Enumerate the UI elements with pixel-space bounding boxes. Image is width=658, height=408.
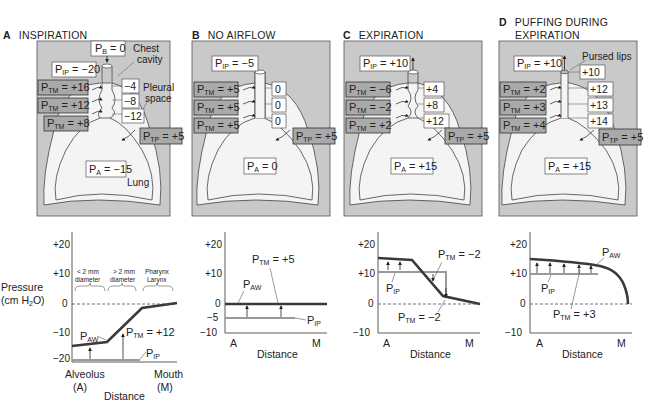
chart-c: +20 +10 0 −10 PTM = −2 PIP PTM = −2 A M …: [353, 232, 481, 360]
svg-text:0: 0: [520, 298, 526, 309]
svg-text:+10: +10: [205, 268, 222, 279]
svg-text:PIP = −5: PIP = −5: [215, 57, 254, 70]
svg-text:PTP = +5: PTP = +5: [448, 130, 489, 143]
svg-text:Alveolus: Alveolus: [65, 368, 105, 380]
svg-text:−4: −4: [124, 80, 136, 92]
svg-text:PTM = +12: PTM = +12: [126, 326, 175, 339]
chart-b: +20 +10 0 −5 −10 PTM = +5 PAW PIP A M Di…: [200, 232, 327, 360]
svg-text:−20: −20: [53, 353, 70, 364]
svg-text:PA = 0: PA = 0: [247, 160, 278, 173]
svg-text:Pursed lips: Pursed lips: [582, 51, 631, 62]
svg-text:PIP = −20: PIP = −20: [55, 63, 100, 76]
svg-text:PTM = +12: PTM = +12: [41, 99, 90, 112]
svg-text:PIP: PIP: [307, 314, 321, 327]
panel-c-lung-diagram: PIP = +10 PTM = −6 PTM = −2 PTM = +2 +4 …: [344, 41, 489, 216]
panel-b-lung-diagram: PIP = −5 PTM = +5 PTM = +5 PTM = +5 0 0 …: [192, 41, 337, 216]
svg-text:< 2 mm: < 2 mm: [77, 268, 99, 275]
svg-text:0: 0: [368, 298, 374, 309]
svg-text:Chest: Chest: [133, 43, 159, 54]
svg-text:+20: +20: [358, 239, 375, 250]
svg-text:PTP = +5: PTP = +5: [602, 131, 643, 144]
svg-text:PIP: PIP: [146, 347, 160, 360]
svg-text:PIP: PIP: [541, 282, 555, 295]
svg-text:PTM = −2: PTM = −2: [438, 248, 481, 261]
svg-text:Distance: Distance: [410, 348, 451, 360]
svg-text:PTM = +5: PTM = +5: [197, 119, 240, 132]
chart-a: Pressure (cm H2O) +20 +10 0 −10 −20 < 2 …: [1, 232, 183, 402]
svg-text:PTP = +5: PTP = +5: [143, 130, 184, 143]
svg-text:M: M: [465, 337, 474, 349]
svg-text:PTM = +16: PTM = +16: [41, 81, 90, 94]
diagram-canvas: PB = 0 Chest cavity PIP = −20 PTM = +16 …: [0, 0, 658, 408]
svg-text:diameter: diameter: [110, 276, 136, 283]
svg-text:+10: +10: [582, 66, 600, 78]
svg-text:PTM = +3: PTM = +3: [553, 308, 596, 321]
svg-text:+12: +12: [590, 83, 608, 95]
svg-text:diameter: diameter: [75, 276, 101, 283]
svg-text:0: 0: [275, 83, 281, 95]
svg-text:PIP = +10: PIP = +10: [517, 57, 562, 70]
svg-text:+4: +4: [426, 83, 438, 95]
chart-d: +20 +10 0 −10 PAW PIP PTM = +3 A M Dista…: [505, 232, 632, 360]
svg-text:PTM = +8: PTM = +8: [47, 117, 90, 130]
svg-text:−10: −10: [53, 327, 70, 338]
svg-text:PTP = +5: PTP = +5: [296, 130, 337, 143]
svg-text:cavity: cavity: [137, 54, 163, 65]
svg-text:PTM = +5: PTM = +5: [197, 101, 240, 114]
svg-text:+13: +13: [590, 99, 608, 111]
svg-text:M: M: [312, 337, 321, 349]
svg-text:A: A: [230, 337, 237, 349]
svg-text:0: 0: [215, 298, 221, 309]
svg-text:−5: −5: [207, 312, 219, 323]
svg-text:PAW: PAW: [602, 246, 621, 259]
svg-text:PTM = +4: PTM = +4: [503, 119, 546, 132]
panel-d-lung-diagram: Pursed lips PIP = +10 +10 PTM = +2 PTM =…: [499, 41, 643, 216]
svg-text:Distance: Distance: [257, 348, 298, 360]
svg-text:−10: −10: [200, 327, 217, 338]
svg-text:+20: +20: [510, 239, 527, 250]
svg-text:−8: −8: [124, 95, 136, 107]
svg-text:A: A: [383, 337, 390, 349]
svg-text:−12: −12: [124, 110, 142, 122]
svg-text:PTM = +3: PTM = +3: [503, 101, 546, 114]
svg-text:+10: +10: [358, 268, 375, 279]
svg-text:Pharynx: Pharynx: [145, 268, 170, 276]
svg-text:PIP: PIP: [386, 282, 400, 295]
svg-text:PTM = +5: PTM = +5: [252, 253, 295, 266]
svg-text:PA = −15: PA = −15: [89, 163, 132, 176]
svg-text:(cm H2O): (cm H2O): [1, 294, 45, 307]
svg-text:PTM = +2: PTM = +2: [503, 83, 546, 96]
svg-text:PTM = −2: PTM = −2: [349, 101, 392, 114]
svg-text:Pleural: Pleural: [143, 82, 174, 93]
svg-text:(A): (A): [73, 381, 87, 393]
svg-text:PTM = −6: PTM = −6: [349, 83, 392, 96]
svg-text:PTM = +2: PTM = +2: [349, 119, 392, 132]
svg-text:+10: +10: [53, 268, 70, 279]
svg-text:Mouth: Mouth: [154, 368, 183, 380]
svg-text:−10: −10: [353, 327, 370, 338]
svg-text:+10: +10: [510, 268, 527, 279]
svg-text:0: 0: [275, 99, 281, 111]
svg-text:PIP = +10: PIP = +10: [363, 57, 408, 70]
svg-text:PAW: PAW: [243, 278, 262, 291]
svg-text:PTM = −2: PTM = −2: [398, 311, 441, 324]
svg-text:space: space: [145, 93, 172, 104]
svg-text:> 2 mm: > 2 mm: [113, 268, 135, 275]
svg-text:PB = 0: PB = 0: [95, 42, 126, 55]
svg-text:PTM = +5: PTM = +5: [197, 83, 240, 96]
svg-text:PA = +15: PA = +15: [394, 160, 437, 173]
svg-text:−10: −10: [505, 327, 522, 338]
svg-text:+14: +14: [590, 115, 608, 127]
svg-text:Lung: Lung: [127, 177, 149, 188]
svg-text:+20: +20: [205, 239, 222, 250]
svg-text:Distance: Distance: [104, 390, 145, 402]
svg-text:Larynx: Larynx: [147, 276, 167, 284]
svg-text:0: 0: [62, 298, 68, 309]
svg-text:Pressure: Pressure: [1, 281, 43, 293]
svg-text:M: M: [617, 337, 626, 349]
svg-text:(M): (M): [157, 381, 173, 393]
svg-text:0: 0: [275, 115, 281, 127]
svg-text:+20: +20: [53, 239, 70, 250]
svg-text:Distance: Distance: [562, 348, 603, 360]
svg-text:+12: +12: [426, 115, 444, 127]
